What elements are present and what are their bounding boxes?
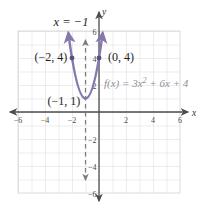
function-equation-prefix: f(x) = 3x (104, 77, 143, 90)
point-label-neg2-4: (−2, 4) (35, 50, 68, 64)
graph-canvas: −6 −4 −2 2 4 6 6 4 2 −2 −4 −6 y x x = −1… (0, 0, 203, 213)
x-tick--2: −2 (68, 116, 77, 125)
y-tick--6: −6 (88, 190, 97, 199)
x-tick--4: −4 (41, 116, 50, 125)
x-tick-4: 4 (151, 116, 155, 125)
x-axis-label: x (191, 108, 197, 118)
point-dot-0-4 (97, 56, 102, 61)
vertex-label: (−1, 1) (48, 94, 81, 108)
function-equation-label: f(x) = 3x2 + 6x + 4 (104, 76, 189, 90)
y-tick-4: 4 (93, 55, 97, 64)
parabola-graph-figure: −6 −4 −2 2 4 6 6 4 2 −2 −4 −6 y x x = −1… (0, 0, 203, 213)
point-dot-neg2-4 (70, 56, 75, 61)
y-tick--2: −2 (88, 136, 97, 145)
point-label-0-4: (0, 4) (108, 50, 134, 64)
x-tick-6: 6 (178, 116, 182, 125)
y-tick-6: 6 (93, 28, 97, 37)
axis-of-symmetry-label: x = −1 (53, 15, 89, 29)
y-tick--4: −4 (88, 163, 97, 172)
x-tick-2: 2 (124, 116, 128, 125)
y-axis-label: y (101, 7, 107, 17)
function-equation-suffix: + 6x + 4 (147, 77, 189, 89)
x-tick--6: −6 (14, 116, 23, 125)
